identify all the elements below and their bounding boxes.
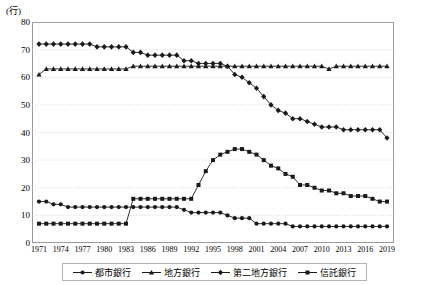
data-point [239,74,244,80]
legend-item-4[interactable]: 信託銀行 [298,266,356,279]
data-point [378,224,382,228]
x-axis-tick: 2013 [336,245,352,254]
y-axis-tick: 80 [4,17,30,27]
x-axis-tick: 2010 [314,245,330,254]
legend-label: 地方銀行 [164,266,200,279]
data-point [175,197,179,201]
data-point [167,205,171,209]
x-axis-tick: 2001 [249,245,265,254]
data-point [225,213,229,217]
x-axis-tick: 2016 [357,245,373,254]
data-point [341,127,346,133]
data-point [378,200,382,204]
data-point [95,222,99,226]
data-point [262,222,266,226]
data-point [247,216,251,220]
data-point [355,127,360,133]
data-point [327,189,331,193]
x-axis-tick: 2004 [270,245,286,254]
data-point [204,169,208,173]
data-point [334,224,338,228]
data-point [94,44,99,50]
x-axis-tick: 1971 [31,245,47,254]
data-point [102,222,106,226]
legend-item-2[interactable]: 地方銀行 [142,266,200,279]
data-point [240,147,244,151]
legend-marker-triangle-icon [142,268,161,277]
data-point [247,150,251,154]
data-point [348,127,353,133]
data-point [305,119,310,125]
data-point [73,41,78,47]
data-point [116,44,121,50]
data-point [210,61,215,67]
data-point [298,183,302,187]
x-axis-tick: 1983 [118,245,134,254]
data-point [312,224,316,228]
data-point [290,116,295,122]
data-point [305,224,309,228]
data-point [269,222,273,226]
legend-label: 信託銀行 [320,266,356,279]
y-axis-tick: 70 [4,45,30,55]
data-point [153,205,157,209]
legend-marker-diamond-icon [211,268,230,277]
data-point [363,127,368,133]
data-point [168,197,172,201]
data-point [51,41,56,47]
data-point [320,189,324,193]
data-point [319,124,324,130]
data-point [276,166,280,170]
legend-item-1[interactable]: 都市銀行 [73,266,131,279]
data-point [117,222,121,226]
data-point [305,183,309,187]
data-point [320,224,324,228]
x-axis-tick: 1992 [183,245,199,254]
x-axis-tick: 1974 [53,245,69,254]
data-point [356,224,360,228]
data-point [123,44,128,50]
data-point [182,197,186,201]
data-point [160,197,164,201]
data-point [167,52,172,58]
data-point [131,197,135,201]
data-point [36,41,41,47]
data-point [342,191,346,195]
data-point [102,44,107,50]
data-point [189,211,193,215]
data-point [254,222,258,226]
data-point [160,52,165,58]
data-point [117,205,121,209]
data-point [326,124,331,130]
legend-marker-circle-icon [73,268,92,277]
y-axis-tick: 50 [4,100,30,110]
data-point [363,224,367,228]
data-point [371,197,375,201]
data-point [59,222,63,226]
x-axis-tick: 1998 [227,245,243,254]
data-point [284,172,288,176]
x-axis-tick: 1986 [140,245,156,254]
series-line [39,44,387,138]
data-point [131,50,136,56]
data-point [283,222,287,226]
data-point [255,153,259,157]
data-point [189,197,193,201]
legend-item-3[interactable]: 第二地方銀行 [211,266,287,279]
data-point [312,121,317,127]
data-point [51,202,55,206]
data-point [174,52,179,58]
y-axis-tick: 30 [4,155,30,165]
bank-count-line-chart: (行) 01020304050607080 197119741977198019… [0,0,429,285]
data-point [211,211,215,215]
data-point [146,197,150,201]
x-axis-tick: 2019 [379,245,395,254]
data-point [233,147,237,151]
data-point [80,205,84,209]
data-point [196,211,200,215]
data-point [298,224,302,228]
x-axis-tick-labels: 1971197419771980198319861989199219951998… [32,245,394,259]
data-point [291,175,295,179]
data-point [181,58,186,64]
y-axis-tick: 0 [4,238,30,248]
